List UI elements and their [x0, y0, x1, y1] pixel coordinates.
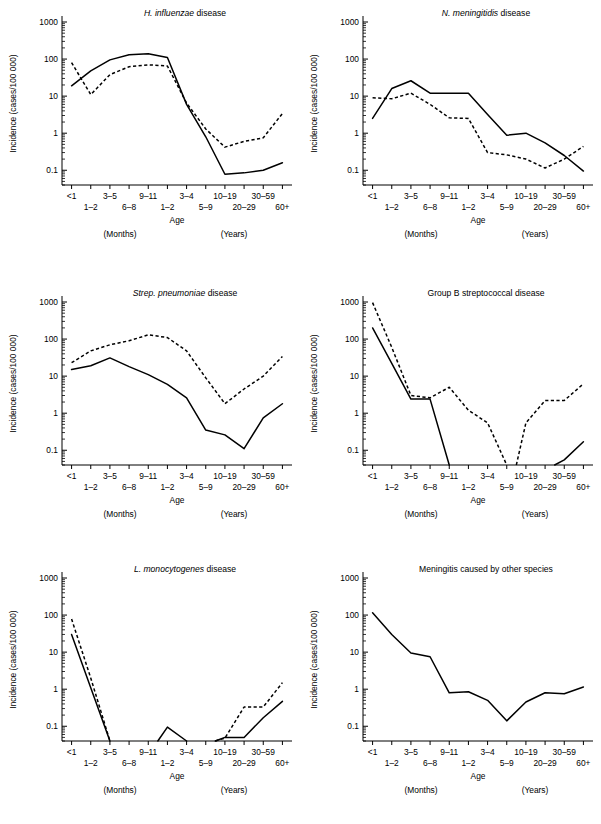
y-tick-label: 1	[354, 408, 359, 418]
y-tick-label: 100	[345, 54, 359, 64]
x-tick-label: 9–11	[139, 191, 157, 201]
x-tick-label: 1–2	[385, 758, 399, 768]
chart-svg: Strep. pneumoniae disease10001001010.1<1…	[0, 280, 300, 555]
x-tick-label: 3–5	[103, 471, 117, 481]
y-tick-label: 100	[44, 54, 58, 64]
chart-svg: N. meningitidis disease10001001010.1<11–…	[301, 0, 601, 275]
chart-svg: Meningitis caused by other species100010…	[301, 556, 601, 824]
x-tick-label: 6–8	[423, 482, 437, 492]
y-tick-label: 1000	[340, 573, 359, 583]
y-tick-label: 1	[354, 128, 359, 138]
chart-panel: Group B streptococcal disease10001001010…	[301, 280, 601, 555]
meningitis-incidence-figure: H. influenzae disease10001001010.1<11–23…	[0, 0, 601, 824]
panel-title: Meningitis caused by other species	[419, 564, 553, 574]
y-axis-label: Incidence (cases/100 000)	[8, 334, 18, 432]
x-axis-group-years: (Years)	[522, 785, 549, 795]
caption-fragment	[0, 810, 601, 824]
x-tick-label: 60+	[576, 758, 590, 768]
y-tick-label: 0.1	[347, 445, 359, 455]
y-axis-label: Incidence (cases/100 000)	[309, 610, 319, 708]
panel-title: H. influenzae disease	[144, 8, 226, 18]
x-tick-label: 60+	[576, 482, 590, 492]
x-axis-group-years: (Years)	[221, 785, 248, 795]
x-tick-label: <1	[368, 747, 378, 757]
x-tick-label: 6–8	[122, 202, 136, 212]
x-axis-group-years: (Years)	[522, 509, 549, 519]
series-line-solid	[72, 54, 283, 175]
x-axis-label: Age	[170, 771, 185, 781]
y-tick-label: 10	[49, 91, 59, 101]
x-tick-label: 1–2	[84, 482, 98, 492]
chart-svg: H. influenzae disease10001001010.1<11–23…	[0, 0, 300, 275]
x-tick-label: 3–4	[180, 191, 194, 201]
x-axis-group-months: (Months)	[404, 229, 437, 239]
x-tick-label: 10–19	[514, 471, 538, 481]
x-tick-label: 9–11	[139, 747, 157, 757]
panel-title: Group B streptococcal disease	[427, 288, 544, 298]
x-tick-label: 3–5	[103, 747, 117, 757]
x-tick-label: 3–4	[180, 471, 194, 481]
x-tick-label: 20–29	[232, 482, 256, 492]
y-tick-label: 1000	[39, 297, 58, 307]
x-tick-label: 1–2	[385, 482, 399, 492]
x-tick-label: 10–19	[514, 747, 538, 757]
x-tick-label: 6–8	[122, 482, 136, 492]
x-tick-label: 6–8	[423, 202, 437, 212]
x-tick-label: 60+	[275, 202, 289, 212]
x-tick-label: <1	[67, 191, 77, 201]
y-tick-label: 1000	[39, 17, 58, 27]
x-tick-label: 10–19	[213, 191, 237, 201]
y-tick-label: 1	[53, 684, 58, 694]
x-tick-label: 1–2	[461, 482, 475, 492]
series-line-dashed	[373, 303, 507, 465]
x-tick-label: 60+	[275, 482, 289, 492]
x-tick-label: 10–19	[213, 747, 237, 757]
x-axis-group-years: (Years)	[221, 229, 248, 239]
y-axis-label: Incidence (cases/100 000)	[309, 334, 319, 432]
x-tick-label: <1	[67, 471, 77, 481]
x-axis-label: Age	[471, 771, 486, 781]
chart-panel: H. influenzae disease10001001010.1<11–23…	[0, 0, 300, 275]
x-tick-label: 3–4	[180, 747, 194, 757]
x-tick-label: 5–9	[199, 202, 213, 212]
series-line-solid	[555, 442, 584, 465]
y-tick-label: 1	[53, 128, 58, 138]
x-tick-label: 30–59	[553, 747, 577, 757]
y-tick-label: 0.1	[347, 165, 359, 175]
chart-svg: Group B streptococcal disease10001001010…	[301, 280, 601, 555]
x-tick-label: 20–29	[533, 482, 557, 492]
chart-panel: Meningitis caused by other species100010…	[301, 556, 601, 824]
x-tick-label: 9–11	[139, 471, 157, 481]
x-tick-label: 1–2	[461, 202, 475, 212]
x-tick-label: 9–11	[440, 191, 458, 201]
panel-title: Strep. pneumoniae disease	[133, 288, 238, 298]
x-axis-group-months: (Months)	[404, 785, 437, 795]
x-tick-label: 30–59	[252, 471, 276, 481]
x-tick-label: 3–5	[103, 191, 117, 201]
x-tick-label: 30–59	[252, 191, 276, 201]
series-line-solid	[373, 328, 450, 465]
x-tick-label: 9–11	[440, 471, 458, 481]
x-tick-label: 6–8	[122, 758, 136, 768]
x-axis-group-years: (Years)	[221, 509, 248, 519]
x-tick-label: 1–2	[160, 482, 174, 492]
series-line-solid	[72, 634, 110, 741]
x-tick-label: 3–5	[404, 191, 418, 201]
x-tick-label: 3–5	[404, 747, 418, 757]
y-axis-label: Incidence (cases/100 000)	[309, 54, 319, 152]
x-tick-label: 5–9	[199, 758, 213, 768]
x-axis-group-months: (Months)	[404, 509, 437, 519]
x-tick-label: 30–59	[252, 747, 276, 757]
chart-svg: L. monocytogenes disease10001001010.1<11…	[0, 556, 300, 824]
chart-panel: L. monocytogenes disease10001001010.1<11…	[0, 556, 300, 824]
x-tick-label: 9–11	[440, 747, 458, 757]
y-tick-label: 10	[350, 91, 360, 101]
x-tick-label: 6–8	[423, 758, 437, 768]
x-tick-label: 5–9	[500, 202, 514, 212]
x-tick-label: 1–2	[160, 758, 174, 768]
y-tick-label: 0.1	[347, 721, 359, 731]
panel-title: N. meningitidis disease	[442, 8, 531, 18]
y-tick-label: 0.1	[46, 165, 58, 175]
x-axis-group-months: (Months)	[103, 509, 136, 519]
y-tick-label: 100	[345, 610, 359, 620]
